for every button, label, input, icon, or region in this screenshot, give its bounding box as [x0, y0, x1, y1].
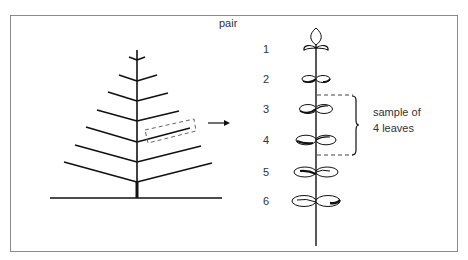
pair-label-2: 2 [259, 74, 273, 85]
branch-pair-2 [119, 75, 157, 81]
branch-pair-5 [86, 127, 190, 142]
pair-label-1: 1 [259, 44, 273, 55]
annotation-line-2: 4 leaves [373, 123, 414, 134]
pair-label-4: 4 [259, 135, 273, 146]
annotation-line-1: sample of [373, 107, 421, 118]
pair-label-5: 5 [259, 167, 273, 178]
branch-pair-4 [97, 110, 179, 121]
branch-pair-3 [108, 92, 168, 101]
sample-bracket [317, 95, 359, 155]
highlight-dashed-box [145, 119, 196, 143]
right-arrow-icon [208, 120, 230, 126]
branch-pair-6 [75, 145, 201, 162]
curly-brace-icon [352, 96, 359, 155]
tree-schematic [50, 50, 222, 198]
branch-pair-7 [64, 162, 212, 182]
pair-label-3: 3 [259, 104, 273, 115]
pair-label-6: 6 [259, 196, 273, 207]
shoot-diagram [292, 28, 340, 246]
pair-header: pair [219, 18, 237, 29]
